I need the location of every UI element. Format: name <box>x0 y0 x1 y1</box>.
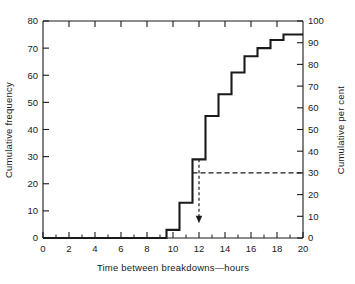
y-axis-left-tick-labels: 01020304050607080 <box>27 15 38 243</box>
y-tick-label-left: 50 <box>27 97 38 108</box>
y-tick-label-left: 70 <box>27 43 38 54</box>
y-tick-label-right: 20 <box>308 189 319 200</box>
y-tick-label-right: 30 <box>308 167 319 178</box>
y-tick-label-right: 40 <box>308 146 319 157</box>
y-tick-label-left: 0 <box>33 232 38 243</box>
x-tick-label: 16 <box>246 243 257 254</box>
y-axis-left-ticks <box>43 21 49 238</box>
x-tick-label: 8 <box>144 243 149 254</box>
x-tick-label: 12 <box>194 243 205 254</box>
x-tick-label: 2 <box>66 243 71 254</box>
y-tick-label-right: 70 <box>308 81 319 92</box>
y-axis-right-title: Cumulative per cent <box>335 86 346 174</box>
plot-frame <box>43 21 303 238</box>
x-tick-label: 0 <box>40 243 45 254</box>
y-tick-label-left: 10 <box>27 205 38 216</box>
y-tick-label-right: 60 <box>308 102 319 113</box>
x-tick-label: 18 <box>272 243 283 254</box>
top-axis-ticks <box>69 21 277 27</box>
y-tick-label-right: 90 <box>308 37 319 48</box>
y-axis-right-tick-labels: 0102030405060708090100 <box>308 15 324 243</box>
x-axis-title: Time between breakdowns—hours <box>97 262 249 273</box>
y-tick-label-left: 40 <box>27 124 38 135</box>
y-tick-label-left: 60 <box>27 70 38 81</box>
x-tick-label: 20 <box>298 243 309 254</box>
y-axis-right-ticks <box>297 21 303 238</box>
annotation-layer <box>193 159 304 223</box>
chart-svg: 01020304050607080 0102030405060708090100… <box>0 0 355 284</box>
y-tick-label-left: 20 <box>27 178 38 189</box>
y-tick-label-right: 0 <box>308 232 313 243</box>
y-tick-label-right: 10 <box>308 211 319 222</box>
y-tick-label-left: 80 <box>27 15 38 26</box>
cumulative-frequency-step-line <box>43 35 303 238</box>
y-tick-label-left: 30 <box>27 151 38 162</box>
cumulative-frequency-chart: 01020304050607080 0102030405060708090100… <box>0 0 355 284</box>
x-tick-label: 10 <box>168 243 179 254</box>
x-tick-label: 14 <box>220 243 231 254</box>
x-tick-label: 6 <box>118 243 123 254</box>
median-vertical-arrow-head <box>196 216 202 224</box>
x-axis-tick-labels: 02468101214161820 <box>40 243 308 254</box>
y-tick-label-right: 50 <box>308 124 319 135</box>
y-axis-left-title: Cumulative frequency <box>3 82 14 178</box>
y-tick-label-right: 80 <box>308 59 319 70</box>
x-tick-label: 4 <box>92 243 97 254</box>
y-tick-label-right: 100 <box>308 15 324 26</box>
